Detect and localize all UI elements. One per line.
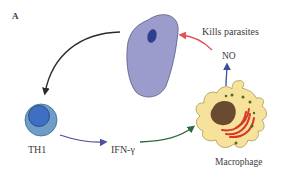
arrow-parasite-to-th1 bbox=[45, 32, 120, 93]
arrow-macrophage-to-no bbox=[226, 65, 227, 86]
macrophage-label: Macrophage bbox=[215, 157, 262, 167]
parasite-cell bbox=[127, 15, 178, 97]
arrow-no-to-parasite bbox=[181, 35, 212, 50]
panel-label: A bbox=[12, 11, 19, 21]
no-label: NO bbox=[222, 51, 236, 61]
arrow-ifn-to-macrophage bbox=[140, 127, 193, 142]
ifn-gamma-label: IFN-γ bbox=[111, 144, 135, 155]
th1-label: TH1 bbox=[28, 144, 46, 155]
th1-cell bbox=[25, 104, 57, 136]
macrophage-cell bbox=[196, 81, 266, 148]
arrow-th1-to-ifn bbox=[60, 135, 105, 142]
kills-parasites-label: Kills parasites bbox=[202, 26, 259, 37]
